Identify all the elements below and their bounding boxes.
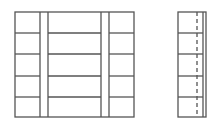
front-frame-outline: [15, 12, 134, 117]
front-elevation-view: [15, 12, 134, 117]
side-elevation-view: [178, 12, 206, 117]
panel-diagram: [0, 0, 218, 137]
side-frame-outline: [178, 12, 206, 117]
